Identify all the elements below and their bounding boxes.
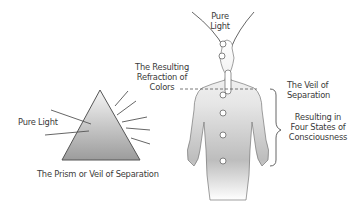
brow-point (219, 53, 225, 59)
veil-label: The Veil of Separation (287, 80, 330, 100)
prism-caption: The Prism or Veil of Separation (37, 169, 159, 179)
pure-light-top-line: Pure (200, 11, 240, 21)
refraction-label-line: Colors (122, 82, 202, 92)
pure-light-input-label: Pure Light (18, 117, 58, 127)
veil-label-line: The Veil of (287, 80, 330, 90)
heart-point (220, 110, 226, 116)
pure-light-top-label: Pure Light (200, 11, 240, 31)
solar-point (220, 132, 226, 138)
veil-label-line: Separation (287, 90, 330, 100)
refraction-label: The Resulting Refraction of Colors (122, 62, 202, 92)
energy-channel (225, 70, 231, 94)
four-states-label-line: Consciousness (280, 132, 356, 142)
refraction-label-line: The Resulting (122, 62, 202, 72)
root-point (220, 158, 226, 164)
four-states-label-line: Resulting in (280, 112, 356, 122)
four-states-label: Resulting in Four States of Consciousnes… (280, 112, 356, 142)
throat-point (220, 92, 226, 98)
prism (62, 90, 140, 160)
pure-light-top-line: Light (200, 21, 240, 31)
crown-point (220, 41, 226, 47)
four-states-label-line: Four States of (280, 122, 356, 132)
refraction-label-line: Refraction of (122, 72, 202, 82)
